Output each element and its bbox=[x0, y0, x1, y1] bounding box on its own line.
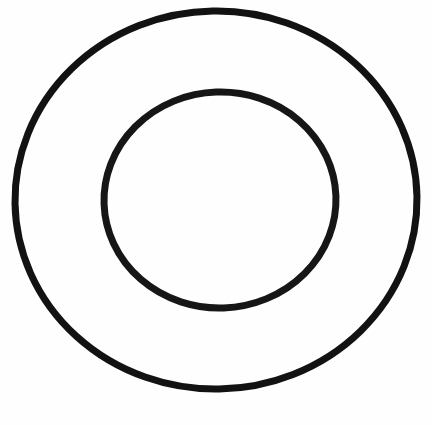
canvas-background bbox=[0, 0, 432, 425]
diagram-canvas bbox=[0, 0, 432, 425]
concentric-circles-figure bbox=[0, 0, 432, 425]
